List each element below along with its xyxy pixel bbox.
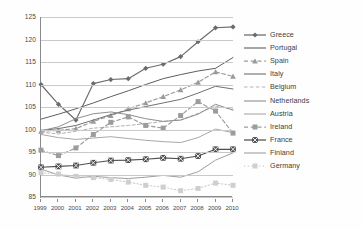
data-point-marker <box>253 124 258 129</box>
data-point-marker <box>73 163 79 169</box>
chart-legend: GreecePortugalSpainItalyBelgiumNetherlan… <box>243 28 359 173</box>
data-point-marker <box>143 156 149 162</box>
legend-item-france[interactable]: France <box>243 134 359 147</box>
data-point-marker <box>91 175 96 180</box>
legend-key-italy-icon <box>243 68 267 80</box>
legend-key-ireland-icon <box>243 121 267 133</box>
data-point-marker <box>108 77 113 82</box>
data-point-marker <box>125 157 131 163</box>
legend-key-germany-icon <box>243 160 267 172</box>
data-point-marker <box>178 188 183 193</box>
x-tick-mark <box>110 199 111 202</box>
legend-label: Greece <box>267 31 294 39</box>
series-line <box>41 86 233 130</box>
data-point-marker <box>90 160 96 166</box>
y-tick-label: 95 <box>6 148 36 155</box>
data-point-marker <box>213 69 219 74</box>
data-point-marker <box>126 180 131 185</box>
data-point-marker <box>143 123 148 128</box>
data-point-marker <box>196 186 201 191</box>
gridline <box>41 175 233 176</box>
legend-item-austria[interactable]: Austria <box>243 107 359 120</box>
x-tick-mark <box>40 199 41 202</box>
data-point-marker <box>178 156 184 162</box>
data-point-marker <box>213 181 218 186</box>
legend-label: France <box>267 136 293 144</box>
y-axis: 859095100105110115120125 <box>4 0 36 229</box>
legend-item-italy[interactable]: Italy <box>243 68 359 81</box>
legend-key-spain-icon <box>243 55 267 67</box>
y-tick-label: 125 <box>6 13 36 20</box>
data-point-marker <box>161 185 166 190</box>
legend-key-netherlands-icon <box>243 95 267 107</box>
data-point-marker <box>108 177 113 182</box>
legend-label: Portugal <box>267 44 297 52</box>
data-point-marker <box>160 155 166 161</box>
data-point-marker <box>213 109 218 114</box>
data-point-marker <box>56 164 62 170</box>
legend-item-finland[interactable]: Finland <box>243 147 359 160</box>
data-point-marker <box>108 120 113 125</box>
data-point-marker <box>91 132 96 137</box>
data-point-marker <box>195 153 201 159</box>
y-tick-label: 90 <box>6 171 36 178</box>
series-italy <box>41 86 233 130</box>
series-austria <box>41 129 233 143</box>
x-tick-mark <box>92 199 93 202</box>
x-tick-mark <box>232 199 233 202</box>
y-tick-label: 115 <box>6 58 36 65</box>
legend-key-portugal-icon <box>243 42 267 54</box>
legend-item-netherlands[interactable]: Netherlands <box>243 94 359 107</box>
series-line <box>41 72 233 131</box>
y-tick-label: 110 <box>6 81 36 88</box>
legend-label: Belgium <box>267 83 296 91</box>
legend-key-belgium-icon <box>243 81 267 93</box>
x-tick-mark <box>145 199 146 202</box>
legend-label: Spain <box>267 57 289 65</box>
data-point-marker <box>230 24 235 29</box>
x-tick-mark <box>127 199 128 202</box>
x-tick-mark <box>180 199 181 202</box>
gridline <box>41 17 233 18</box>
data-point-marker <box>196 99 201 104</box>
x-axis: 1999200020012002200320042005200620072008… <box>40 199 232 215</box>
legend-item-greece[interactable]: Greece <box>243 28 359 41</box>
data-point-marker <box>143 183 148 188</box>
series-line <box>41 129 233 143</box>
chart-container: 859095100105110115120125 199920002001200… <box>0 0 363 229</box>
legend-item-portugal[interactable]: Portugal <box>243 41 359 54</box>
data-point-marker <box>143 66 148 71</box>
y-tick-label: 85 <box>6 193 36 200</box>
y-tick-label: 105 <box>6 103 36 110</box>
data-point-marker <box>231 131 236 136</box>
x-tick-mark <box>215 199 216 202</box>
legend-key-france-icon <box>243 134 267 146</box>
y-tick-label: 120 <box>6 36 36 43</box>
legend-key-finland-icon <box>243 147 267 159</box>
data-point-marker <box>253 164 258 169</box>
legend-label: Netherlands <box>267 97 309 105</box>
gridline <box>41 152 233 153</box>
data-point-marker <box>126 76 131 81</box>
x-tick-mark <box>162 199 163 202</box>
legend-item-belgium[interactable]: Belgium <box>243 81 359 94</box>
legend-item-ireland[interactable]: Ireland <box>243 120 359 133</box>
data-point-marker <box>108 158 114 164</box>
x-tick-mark <box>197 199 198 202</box>
legend-label: Germany <box>267 162 300 170</box>
gridline <box>41 130 233 131</box>
legend-key-austria-icon <box>243 108 267 120</box>
x-tick-mark <box>57 199 58 202</box>
legend-label: Ireland <box>267 123 292 131</box>
plot-area <box>40 17 232 197</box>
legend-label: Finland <box>267 149 294 157</box>
data-point-marker <box>178 113 183 118</box>
data-point-marker <box>143 100 149 105</box>
gridline <box>41 62 233 63</box>
legend-item-germany[interactable]: Germany <box>243 160 359 173</box>
legend-key-greece-icon <box>243 29 267 41</box>
legend-item-spain[interactable]: Spain <box>243 54 359 67</box>
data-point-marker <box>73 145 78 150</box>
data-point-marker <box>231 183 236 188</box>
gridline <box>41 197 233 198</box>
